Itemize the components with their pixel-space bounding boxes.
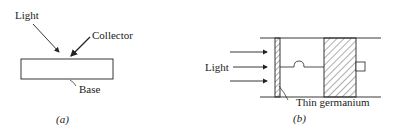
panel-b-germanium-label: Thin germanium <box>296 96 370 108</box>
collector-arrow-icon <box>71 37 90 56</box>
panel-a-collector-label: Collector <box>92 29 133 41</box>
phototransistor-body <box>21 59 113 79</box>
thin-germanium-wafer <box>275 38 280 97</box>
panel-b-caption: (b) <box>293 112 306 125</box>
panel-b: Light Thin germanium (b) <box>205 38 381 125</box>
panel-b-light-label: Light <box>205 61 229 73</box>
panel-a-caption: (a) <box>56 113 69 126</box>
panel-a: Light Collector Base (a) <box>15 9 133 126</box>
light-arrow-icon <box>33 24 59 52</box>
figure-canvas: Light Collector Base (a) Light Thin <box>0 0 393 131</box>
terminal-lead <box>356 62 365 71</box>
base-leader-line <box>70 80 76 86</box>
panel-a-light-label: Light <box>15 9 39 21</box>
panel-a-base-label: Base <box>79 83 101 95</box>
connecting-wire <box>280 61 324 67</box>
hatched-electrode-block <box>324 38 356 97</box>
